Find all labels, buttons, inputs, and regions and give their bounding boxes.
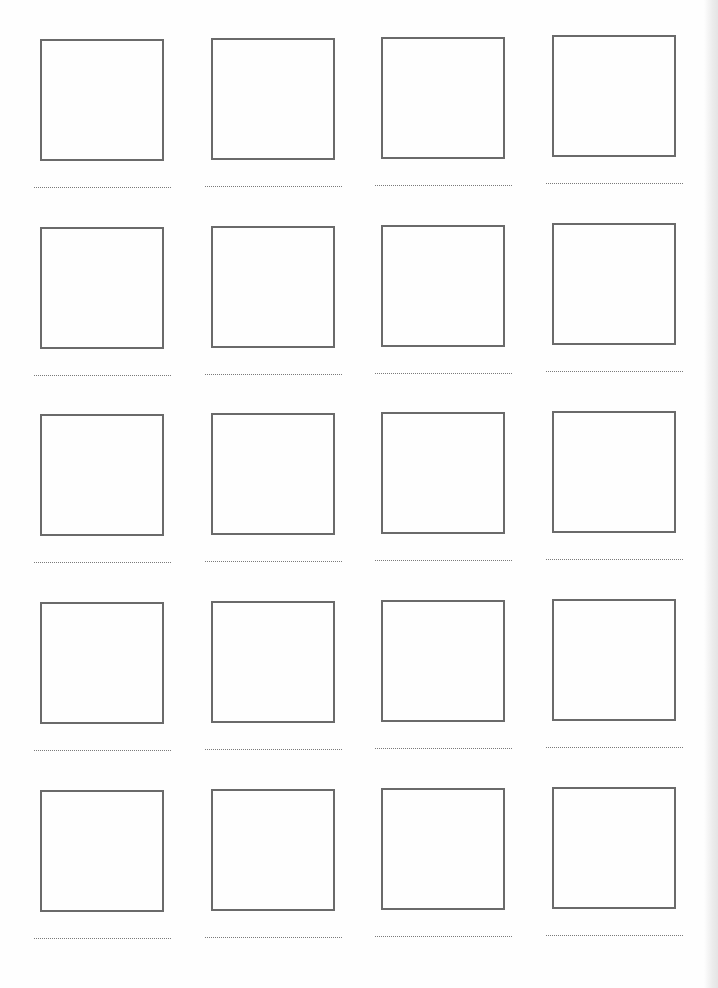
dotted-caption-line [34, 750, 171, 751]
frame-cell-r2-c1 [34, 227, 184, 392]
empty-square-frame [381, 225, 505, 347]
empty-square-frame [40, 227, 164, 349]
frame-cell-r3-c4 [546, 411, 696, 576]
frame-cell-r5-c4 [546, 787, 696, 952]
empty-square-frame [552, 599, 676, 721]
frame-cell-r1-c1 [34, 39, 184, 204]
empty-square-frame [381, 600, 505, 722]
empty-square-frame [211, 38, 335, 160]
frame-cell-r5-c1 [34, 790, 184, 955]
frame-cell-r4-c3 [375, 600, 525, 765]
dotted-caption-line [375, 373, 512, 374]
empty-square-frame [211, 226, 335, 348]
empty-square-frame [40, 790, 164, 912]
frame-cell-r2-c4 [546, 223, 696, 388]
empty-square-frame [211, 789, 335, 911]
frame-cell-r2-c2 [205, 226, 355, 391]
empty-square-frame [381, 412, 505, 534]
dotted-caption-line [205, 561, 342, 562]
dotted-caption-line [375, 748, 512, 749]
frame-cell-r4-c2 [205, 601, 355, 766]
dotted-caption-line [546, 747, 683, 748]
dotted-caption-line [375, 936, 512, 937]
dotted-caption-line [205, 937, 342, 938]
dotted-caption-line [205, 749, 342, 750]
frame-cell-r2-c3 [375, 225, 525, 390]
dotted-caption-line [546, 935, 683, 936]
frame-cell-r4-c4 [546, 599, 696, 764]
page-edge-shadow [704, 0, 718, 988]
dotted-caption-line [34, 187, 171, 188]
dotted-caption-line [205, 374, 342, 375]
frame-cell-r3-c3 [375, 412, 525, 577]
dotted-caption-line [375, 185, 512, 186]
frame-cell-r4-c1 [34, 602, 184, 767]
frame-cell-r5-c3 [375, 788, 525, 953]
empty-square-frame [211, 601, 335, 723]
dotted-caption-line [34, 375, 171, 376]
empty-square-frame [552, 35, 676, 157]
dotted-caption-line [34, 562, 171, 563]
empty-square-frame [40, 39, 164, 161]
frame-cell-r3-c1 [34, 414, 184, 579]
dotted-caption-line [546, 371, 683, 372]
empty-square-frame [211, 413, 335, 535]
empty-square-frame [40, 414, 164, 536]
frame-cell-r1-c3 [375, 37, 525, 202]
frame-cell-r1-c4 [546, 35, 696, 200]
empty-square-frame [381, 788, 505, 910]
empty-square-frame [40, 602, 164, 724]
dotted-caption-line [34, 938, 171, 939]
dotted-caption-line [375, 560, 512, 561]
frame-cell-r1-c2 [205, 38, 355, 203]
worksheet-page [0, 0, 718, 988]
empty-square-frame [552, 223, 676, 345]
empty-square-frame [381, 37, 505, 159]
empty-square-frame [552, 411, 676, 533]
frame-cell-r3-c2 [205, 413, 355, 578]
dotted-caption-line [546, 559, 683, 560]
dotted-caption-line [205, 186, 342, 187]
dotted-caption-line [546, 183, 683, 184]
frame-cell-r5-c2 [205, 789, 355, 954]
empty-square-frame [552, 787, 676, 909]
